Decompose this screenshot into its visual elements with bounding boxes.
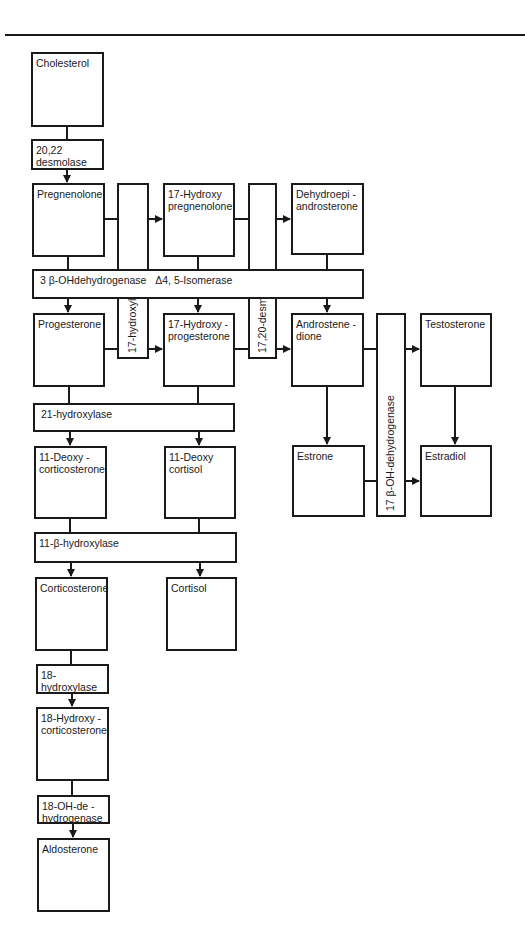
- node-pregnenolone: Pregnenolone: [32, 183, 105, 257]
- node-dehydroepiandrosterone: Dehydroepi - androsterone: [291, 183, 364, 255]
- node-17-hydroxy-progesterone: 17-Hydroxy - progesterone: [163, 313, 235, 387]
- node-estradiol: Estradiol: [420, 445, 492, 517]
- enzyme-3beta-bar-overlay: 3 β-OHdehydrogenase Δ4, 5-Isomerase: [32, 269, 364, 299]
- node-aldosterone: Aldosterone: [37, 838, 110, 912]
- node-cortisol: Cortisol: [166, 577, 237, 651]
- node-corticosterone: Corticosterone: [35, 577, 108, 651]
- enzyme-18-oh-dehydrogenase: 18-OH-de - hydrogenase: [37, 795, 110, 824]
- enzyme-17beta-label: 17 β-OH-dehydrogenase: [384, 395, 396, 511]
- node-androstenedione: Androstene - dione: [291, 313, 364, 387]
- enzyme-11beta-hydroxylase: 11-β-hydroxylase: [34, 532, 237, 563]
- enzyme-18-hydroxylase: 18- hydroxylase: [36, 664, 109, 694]
- node-estrone: Estrone: [292, 445, 365, 517]
- node-17-hydroxy-pregnenolone: 17-Hydroxy pregnenolone: [163, 183, 235, 257]
- enzyme-20-22-desmolase: 20,22 desmolase: [31, 139, 104, 170]
- node-11-deoxycorticosterone: 11-Deoxy - corticosterone: [34, 446, 107, 519]
- enzyme-17beta-hydroxysteroid-dehydrogenase: 17 β-OH-dehydrogenase: [376, 313, 406, 517]
- node-testosterone: Testosterone: [420, 313, 492, 387]
- node-cholesterol: Cholesterol: [31, 52, 104, 127]
- node-11-deoxycortisol: 11-Deoxy cortisol: [164, 446, 236, 519]
- node-18-hydroxycorticosterone: 18-Hydroxy - corticosterone: [36, 707, 109, 781]
- enzyme-21-hydroxylase: 21-hydroxylase: [33, 403, 235, 432]
- node-progesterone: Progesterone: [33, 313, 105, 387]
